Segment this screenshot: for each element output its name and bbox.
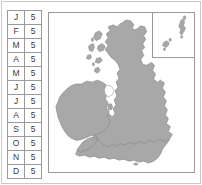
shetland-unst [181, 35, 183, 38]
month-label-cell: M [8, 67, 25, 81]
inner-hebrides-skye [97, 44, 105, 52]
ireland-landmass [56, 80, 110, 140]
outer-hebrides-barra [86, 54, 91, 59]
month-label-cell: O [8, 137, 25, 151]
table-row: M 5 [8, 67, 42, 81]
month-label-cell: A [8, 109, 25, 123]
inner-hebrides-islay [94, 67, 100, 73]
month-value-cell: 5 [25, 81, 42, 95]
table-row: A 5 [8, 53, 42, 67]
inner-hebrides-mull [95, 57, 102, 63]
month-value-cell: 5 [25, 151, 42, 165]
table-row: N 5 [8, 151, 42, 165]
month-value-cell: 5 [25, 137, 42, 151]
month-label-cell: D [8, 165, 25, 179]
outer-hebrides-uist [88, 44, 94, 52]
month-value-cell: 5 [25, 25, 42, 39]
month-label-cell: J [8, 81, 25, 95]
month-label-cell: F [8, 25, 25, 39]
month-value-cell: 5 [25, 109, 42, 123]
month-label-cell: J [8, 11, 25, 25]
table-row: D 5 [8, 165, 42, 179]
month-value-cell: 5 [25, 165, 42, 179]
table-row: J 5 [8, 11, 42, 25]
table-row: F 5 [8, 25, 42, 39]
orkney-islet-a [169, 38, 171, 41]
table-row: A 5 [8, 109, 42, 123]
month-value-cell: 5 [25, 67, 42, 81]
hebrides-islet-a [91, 38, 93, 42]
orkney-islet-b [163, 48, 165, 50]
outer-hebrides-lewis [93, 31, 102, 41]
inset-land-layer [163, 16, 186, 51]
shetland-mainland [179, 19, 186, 35]
table-row: J 5 [8, 81, 42, 95]
month-value-cell: 5 [25, 95, 42, 109]
northern-isles-inset-svg [153, 13, 195, 57]
month-value-cell: 5 [25, 11, 42, 25]
month-label-cell: S [8, 123, 25, 137]
isle-of-wight [134, 163, 138, 165]
table-row: S 5 [8, 123, 42, 137]
month-value-table: J 5 F 5 M 5 A 5 M 5 J 5 [7, 10, 42, 179]
isle-of-man [108, 104, 113, 110]
northern-isles-inset [152, 12, 195, 58]
shetland-yell [183, 16, 186, 20]
month-label-cell: J [8, 95, 25, 109]
figure-root: J 5 F 5 M 5 A 5 M 5 J 5 [0, 0, 202, 185]
month-label-cell: M [8, 39, 25, 53]
month-table-body: J 5 F 5 M 5 A 5 M 5 J 5 [8, 11, 42, 179]
month-label-cell: N [8, 151, 25, 165]
orkney-mainland [163, 41, 170, 48]
table-row: J 5 [8, 95, 42, 109]
hebrides-islet-b [92, 63, 94, 66]
month-label-cell: A [8, 53, 25, 67]
month-value-cell: 5 [25, 123, 42, 137]
table-row: O 5 [8, 137, 42, 151]
map-panel [48, 12, 195, 173]
table-row: M 5 [8, 39, 42, 53]
month-value-cell: 5 [25, 39, 42, 53]
month-value-cell: 5 [25, 53, 42, 67]
